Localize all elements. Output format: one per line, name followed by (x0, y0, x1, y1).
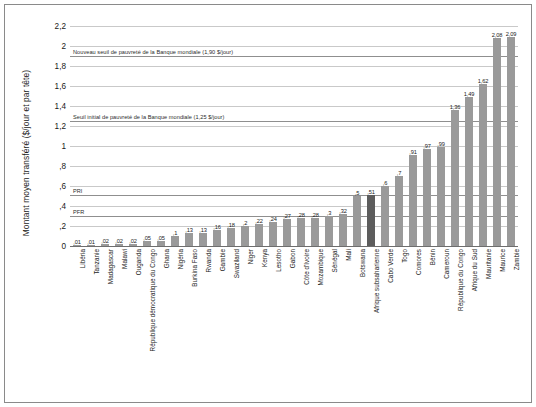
x-tick-label: Libéria (79, 249, 86, 268)
bar-value-label: 1,62 (478, 78, 489, 84)
y-tick-label: ,2 (6, 222, 70, 231)
bar-value-label: ,01 (87, 239, 95, 245)
bar (255, 224, 264, 246)
x-tick-label: Comores (415, 249, 422, 275)
bar-column: ,7 (395, 16, 404, 246)
y-tick-label: 1 (6, 142, 70, 151)
bar (157, 241, 166, 246)
bar-column: ,02 (115, 16, 124, 246)
bar-value-label: ,05 (143, 235, 151, 241)
bar-column: ,02 (101, 16, 110, 246)
bar-column: ,6 (381, 16, 390, 246)
bar (395, 176, 404, 246)
x-tick-label: Burkina Faso (191, 249, 198, 287)
x-tick-label: Nigéria (177, 249, 184, 269)
x-tick-label: Tanzanie (93, 249, 100, 275)
x-tick-label: Afrique subsaharienne (373, 249, 380, 313)
x-tick-label: Bénin (429, 249, 436, 265)
bar (381, 186, 390, 246)
bar-value-label: ,27 (283, 213, 291, 219)
bar (73, 245, 82, 246)
y-axis-ticks: 0,2,4,6,811,21,41,61,822,2 (0, 16, 70, 246)
y-tick-label: 2 (6, 42, 70, 51)
x-tick-label: Swaziland (233, 249, 240, 278)
bar-column: ,28 (311, 16, 320, 246)
bar-column: ,01 (87, 16, 96, 246)
bar-column: 1,36 (451, 16, 460, 246)
bar-column: ,13 (185, 16, 194, 246)
y-tick-label: ,8 (6, 162, 70, 171)
bar-series: ,01,01,02,02,02,05,05,1,13,13,16,18,2,22… (70, 16, 518, 246)
bar-column: ,91 (409, 16, 418, 246)
bar-value-label: ,97 (423, 143, 431, 149)
bar-value-label: ,13 (199, 227, 207, 233)
bar (311, 218, 320, 246)
bar-value-label: 2,08 (492, 32, 503, 38)
bar-column: ,05 (157, 16, 166, 246)
bar-column: ,02 (129, 16, 138, 246)
bar (87, 245, 96, 246)
bar (283, 219, 292, 246)
bar-column: ,51 (367, 16, 376, 246)
y-tick-label: 1,4 (6, 102, 70, 111)
bar (143, 241, 152, 246)
bar-value-label: ,28 (297, 212, 305, 218)
x-tick-label: Kenya (261, 249, 268, 267)
x-tick-label: Rwanda (205, 249, 212, 272)
bar (227, 228, 236, 246)
bar (451, 110, 460, 246)
x-tick-label: Botswana (359, 249, 366, 277)
bar-value-label: ,6 (383, 180, 388, 186)
bar-column: ,01 (73, 16, 82, 246)
bar-column: ,28 (297, 16, 306, 246)
bar-value-label: ,24 (269, 216, 277, 222)
y-tick-label: 1,6 (6, 82, 70, 91)
bar (171, 236, 180, 246)
bar-value-label: 2,09 (506, 31, 517, 37)
y-tick-label: 1,2 (6, 122, 70, 131)
bar-column: ,99 (437, 16, 446, 246)
x-tick-label: Mozambique (317, 249, 324, 286)
bar (465, 97, 474, 246)
bar (213, 230, 222, 246)
bar-value-label: ,13 (185, 227, 193, 233)
x-tick-label: Sénégal (331, 249, 338, 272)
bar-value-label: ,5 (355, 190, 360, 196)
bar (507, 37, 516, 246)
bar-column: ,3 (325, 16, 334, 246)
bar-column: 1,49 (465, 16, 474, 246)
bar-value-label: ,02 (129, 238, 137, 244)
bar (199, 233, 208, 246)
bar-value-label: ,99 (437, 141, 445, 147)
x-tick-label: Gabon (289, 249, 296, 268)
bar-value-label: 1,49 (464, 91, 475, 97)
bar-value-label: 1,36 (450, 104, 461, 110)
bar-column: ,1 (171, 16, 180, 246)
bar-column: ,13 (199, 16, 208, 246)
bar-value-label: ,02 (115, 238, 123, 244)
bar (185, 233, 194, 246)
bar-column: ,24 (269, 16, 278, 246)
bar-value-label: ,32 (339, 208, 347, 214)
y-tick-label: ,6 (6, 182, 70, 191)
bar-value-label: ,2 (243, 220, 248, 226)
y-tick-label: 1,8 (6, 62, 70, 71)
bar-column: ,5 (353, 16, 362, 246)
bar (353, 196, 362, 246)
bar-column: ,97 (423, 16, 432, 246)
bar (241, 226, 250, 246)
bar (325, 216, 334, 246)
x-tick-label: Afrique du Sud (471, 249, 478, 291)
bar-column: 2,09 (507, 16, 516, 246)
bar-value-label: ,3 (327, 210, 332, 216)
bar (409, 155, 418, 246)
x-tick-label: Niger (247, 249, 254, 264)
bar (493, 38, 502, 246)
bar-value-label: ,01 (73, 239, 81, 245)
x-tick-label: Malawi (121, 249, 128, 269)
bar-value-label: ,22 (255, 218, 263, 224)
bar-value-label: ,05 (157, 235, 165, 241)
x-tick-label: Lesotho (275, 249, 282, 272)
y-tick-label: 0 (6, 242, 70, 251)
bar-column: 1,62 (479, 16, 488, 246)
